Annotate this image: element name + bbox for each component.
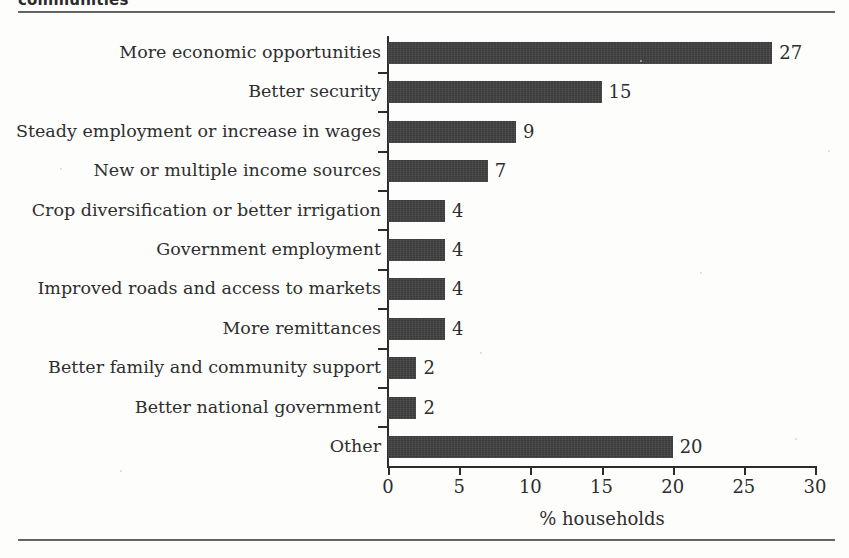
x-axis-tick [388, 466, 390, 475]
bar-value-label: 27 [779, 44, 802, 62]
y-axis-tick [378, 387, 388, 389]
bar [388, 81, 602, 103]
x-axis-tick-label: 5 [453, 478, 464, 496]
scan-artifact [120, 470, 122, 472]
category-label: Better family and community support [11, 359, 381, 377]
y-axis-tick [378, 269, 388, 271]
bar-value-label: 4 [452, 241, 463, 259]
x-axis-tick-label: 20 [661, 478, 684, 496]
x-axis-tick-label: 15 [590, 478, 613, 496]
bar-value-label: 20 [680, 438, 703, 456]
bar-chart: % households More economic opportunities… [0, 0, 849, 558]
x-axis-tick [673, 466, 675, 475]
bar [388, 239, 445, 261]
category-label: More remittances [11, 320, 381, 338]
scan-artifact [250, 200, 252, 202]
bar [388, 357, 416, 379]
y-axis-tick [378, 308, 388, 310]
bar [388, 436, 673, 458]
bar-value-label: 4 [452, 202, 463, 220]
category-label: New or multiple income sources [11, 162, 381, 180]
category-label: Crop diversification or better irrigatio… [11, 202, 381, 220]
category-label: Improved roads and access to markets [11, 280, 381, 298]
scan-artifact [640, 60, 642, 62]
bar [388, 42, 772, 64]
x-axis-tick [815, 466, 817, 475]
y-axis-tick [378, 151, 388, 153]
bar-value-label: 9 [523, 123, 534, 141]
scan-artifact [828, 150, 830, 152]
bar [388, 278, 445, 300]
x-axis-tick-label: 10 [519, 478, 542, 496]
bar [388, 397, 416, 419]
bar [388, 121, 516, 143]
y-axis-tick [378, 426, 388, 428]
bar-value-label: 4 [452, 280, 463, 298]
scan-artifact [480, 352, 482, 354]
bar-value-label: 4 [452, 320, 463, 338]
y-axis-tick [378, 72, 388, 74]
x-axis-tick-label: 0 [382, 478, 393, 496]
category-label: More economic opportunities [11, 44, 381, 62]
bar [388, 200, 445, 222]
category-label: Better national government [11, 399, 381, 417]
x-axis-tick-label: 25 [732, 478, 755, 496]
bar-value-label: 2 [423, 399, 434, 417]
scan-artifact [795, 438, 797, 440]
x-axis-title: % households [387, 510, 817, 528]
bar-value-label: 7 [495, 162, 506, 180]
category-label: Other [11, 438, 381, 456]
x-axis-tick [459, 466, 461, 475]
y-axis-tick [378, 111, 388, 113]
scan-artifact [700, 272, 702, 274]
category-label: Government employment [11, 241, 381, 259]
bar [388, 160, 488, 182]
scan-artifact [60, 168, 62, 170]
bar [388, 318, 445, 340]
y-axis-tick [378, 190, 388, 192]
bar-value-label: 15 [609, 83, 632, 101]
scan-artifact [338, 96, 340, 98]
y-axis-tick [378, 348, 388, 350]
figure-panel: communities % households More economic o… [0, 0, 849, 558]
x-axis-tick [602, 466, 604, 475]
y-axis-tick [378, 229, 388, 231]
bar-value-label: 2 [423, 359, 434, 377]
category-label: Steady employment or increase in wages [11, 123, 381, 141]
x-axis-tick-label: 30 [804, 478, 827, 496]
x-axis-tick [744, 466, 746, 475]
x-axis-tick [530, 466, 532, 475]
category-label: Better security [11, 83, 381, 101]
